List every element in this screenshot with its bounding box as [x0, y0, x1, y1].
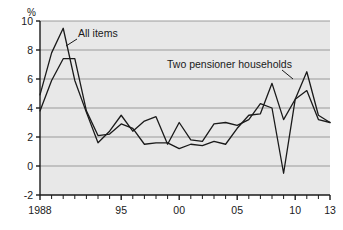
- x-tick-label-1988: 1988: [28, 204, 52, 216]
- x-tick-label-2013: 13: [324, 204, 336, 216]
- y-tick-label-6: 6: [27, 73, 33, 85]
- y-tick-label-8: 8: [27, 44, 33, 56]
- x-tick-label-2000: 00: [173, 204, 185, 216]
- y-tick-label-2: 2: [27, 131, 33, 143]
- y-tick-label--2: -2: [24, 189, 33, 201]
- line-chart: 1086420-2 19889500051013 All itemsTwo pe…: [0, 0, 343, 230]
- annotation-label-1: Two pensioner households: [167, 58, 292, 70]
- x-tick-label-2005: 05: [231, 204, 243, 216]
- y-tick-label-4: 4: [27, 102, 33, 114]
- y-tick-label-0: 0: [27, 160, 33, 172]
- annotation-label-0: All items: [78, 27, 118, 39]
- y-axis-unit-label: %: [27, 7, 36, 18]
- chart-container: 1086420-2 19889500051013 All itemsTwo pe…: [0, 0, 343, 230]
- x-tick-label-2010: 10: [289, 204, 301, 216]
- x-tick-label-1995: 95: [115, 204, 127, 216]
